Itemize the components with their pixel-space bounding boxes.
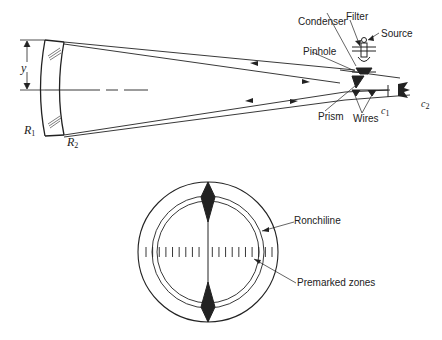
mirror [41, 40, 65, 136]
eye-icon [398, 82, 410, 98]
label-filter: Filter [346, 12, 368, 22]
prism [352, 76, 364, 88]
label-wires: Wires [353, 114, 379, 124]
light-source-assembly [352, 38, 376, 75]
label-c2: c2 [421, 99, 429, 111]
label-premarked-zones: Premarked zones [297, 278, 375, 288]
optical-test-figure: Condenser Filter Source Pinhole Prism Wi… [0, 0, 442, 340]
zone-ticks [146, 247, 272, 257]
label-pinhole: Pinhole [303, 47, 336, 57]
ray-arrows [245, 61, 310, 104]
label-y: y [21, 62, 26, 74]
label-condenser: Condenser [298, 17, 347, 27]
label-r2: R2 [67, 136, 78, 150]
label-prism: Prism [318, 112, 344, 122]
label-r1: R1 [24, 124, 35, 138]
label-c1: c1 [381, 106, 389, 118]
label-ronchiline: Ronchiline [294, 216, 341, 226]
label-source: Source [381, 29, 413, 39]
figure-drawing [0, 0, 442, 340]
